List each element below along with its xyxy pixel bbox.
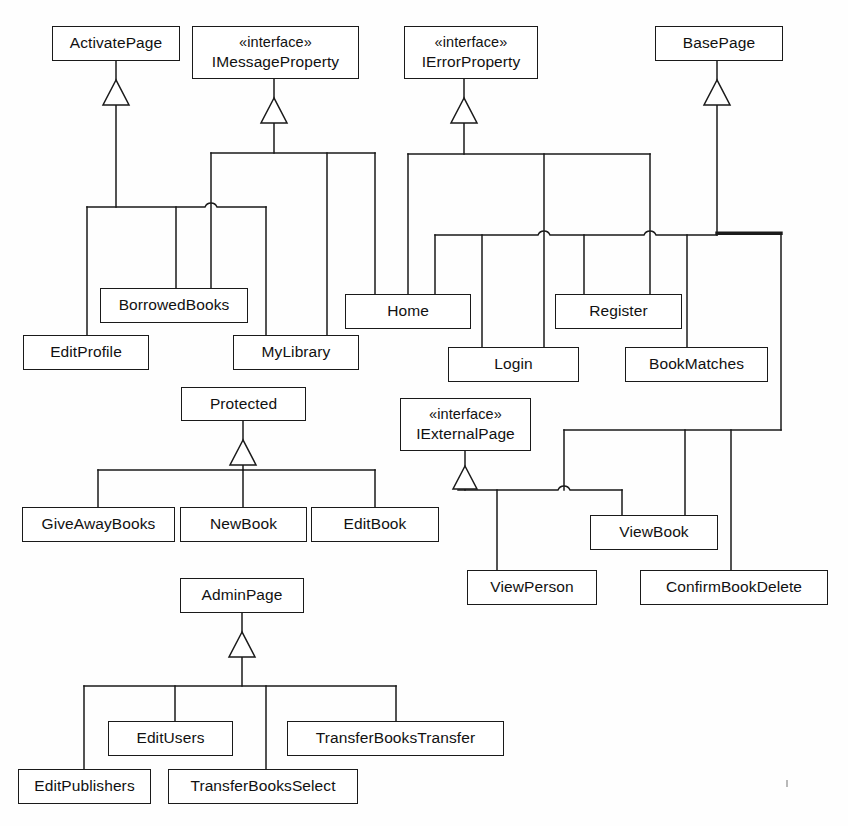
class-node-stereotype: «interface» [239, 33, 312, 52]
class-node-newbook[interactable]: NewBook [180, 507, 307, 542]
class-node-name: Register [589, 301, 648, 321]
class-node-name: ViewPerson [490, 577, 573, 597]
class-node-name: BasePage [683, 33, 755, 53]
class-node-viewperson[interactable]: ViewPerson [467, 570, 597, 605]
class-node-name: MyLibrary [262, 342, 331, 362]
class-node-basepage[interactable]: BasePage [655, 26, 783, 61]
class-node-stereotype: «interface» [435, 33, 508, 52]
class-node-confirmbookdelete[interactable]: ConfirmBookDelete [640, 570, 828, 605]
class-node-editbook[interactable]: EditBook [311, 507, 439, 542]
class-node-name: TransferBooksTransfer [316, 728, 475, 748]
class-node-name: EditUsers [136, 728, 204, 748]
class-node-login[interactable]: Login [448, 347, 579, 382]
class-node-name: IErrorProperty [422, 52, 521, 72]
class-node-register[interactable]: Register [555, 294, 682, 329]
generalization-arrow-activatepage [103, 80, 129, 105]
class-node-name: GiveAwayBooks [42, 514, 156, 534]
class-node-editpublishers[interactable]: EditPublishers [18, 769, 151, 804]
class-node-name: IExternalPage [416, 424, 515, 444]
generalization-arrow-iexternalpage [453, 466, 477, 489]
class-node-name: Login [494, 354, 532, 374]
class-node-adminpage[interactable]: AdminPage [180, 578, 304, 613]
class-node-bookmatches[interactable]: BookMatches [625, 347, 768, 382]
class-node-ierrorproperty[interactable]: «interface»IErrorProperty [404, 26, 538, 79]
generalization-arrow-protected [230, 440, 256, 465]
class-node-transferbooksselect[interactable]: TransferBooksSelect [168, 769, 358, 804]
class-node-name: BorrowedBooks [119, 295, 230, 315]
class-node-imessageproperty[interactable]: «interface»IMessageProperty [192, 26, 359, 79]
class-node-editprofile[interactable]: EditProfile [23, 335, 149, 370]
class-node-name: EditPublishers [34, 776, 134, 796]
class-node-name: ConfirmBookDelete [666, 577, 802, 597]
class-node-name: NewBook [210, 514, 277, 534]
class-node-name: EditBook [344, 514, 407, 534]
class-node-activatepage[interactable]: ActivatePage [52, 26, 180, 61]
class-node-name: EditProfile [50, 342, 122, 362]
class-node-viewbook[interactable]: ViewBook [590, 515, 718, 550]
class-node-name: Home [387, 301, 429, 321]
class-node-name: ViewBook [619, 522, 688, 542]
class-node-editusers[interactable]: EditUsers [108, 721, 233, 756]
class-node-name: Protected [210, 394, 277, 414]
class-node-name: TransferBooksSelect [190, 776, 335, 796]
generalization-arrow-adminpage [229, 632, 255, 657]
class-node-mylibrary[interactable]: MyLibrary [233, 335, 359, 370]
class-node-iexternalpage[interactable]: «interface»IExternalPage [400, 398, 531, 451]
generalization-iexternalpage [458, 451, 622, 570]
class-node-borrowedbooks[interactable]: BorrowedBooks [100, 288, 248, 323]
generalization-arrow-imessageproperty [261, 98, 287, 123]
scan-artifact-speck [786, 780, 788, 787]
class-node-name: BookMatches [649, 354, 744, 374]
class-node-protected[interactable]: Protected [181, 387, 306, 421]
generalization-arrow-basepage [704, 80, 730, 105]
class-node-home[interactable]: Home [345, 294, 471, 329]
class-node-giveawaybooks[interactable]: GiveAwayBooks [22, 507, 175, 542]
class-node-name: AdminPage [201, 585, 282, 605]
uml-class-diagram: ActivatePage«interface»IMessageProperty«… [0, 0, 848, 826]
generalization-arrow-ierrorproperty [451, 98, 477, 123]
class-node-name: IMessageProperty [212, 52, 339, 72]
class-node-name: ActivatePage [70, 33, 163, 53]
class-node-stereotype: «interface» [429, 405, 502, 424]
class-node-transferbookstransfer[interactable]: TransferBooksTransfer [287, 721, 504, 756]
